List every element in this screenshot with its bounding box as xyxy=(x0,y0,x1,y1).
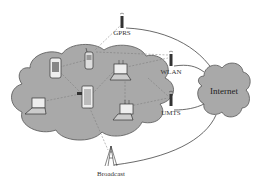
broadcast-label: Broadcast xyxy=(97,170,125,178)
diagram-canvas: Internet xyxy=(0,0,253,184)
gprs-antenna-icon xyxy=(120,13,124,28)
wlan-antenna-icon xyxy=(169,51,173,66)
umts-label: UMTS xyxy=(161,109,181,117)
pda-device xyxy=(50,58,61,78)
gprs-label: GPRS xyxy=(113,29,131,37)
broadcast-tower-icon xyxy=(105,146,117,166)
network-diagram: Internet xyxy=(0,0,253,184)
wlan-label: WLAN xyxy=(161,68,182,76)
internet-label: Internet xyxy=(210,86,238,96)
